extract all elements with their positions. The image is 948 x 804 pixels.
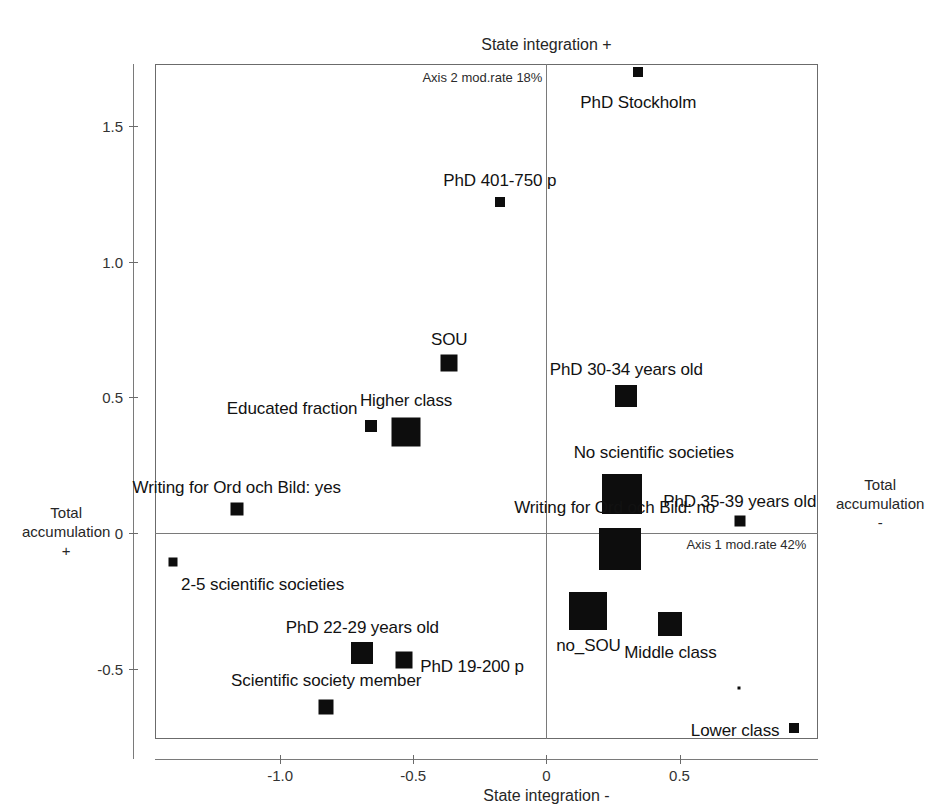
data-point-marker[interactable] [392,417,421,446]
x-tick [680,755,681,764]
data-point-label: Lower class [691,721,780,741]
data-point-marker[interactable] [737,687,740,690]
data-point-marker[interactable] [319,699,334,714]
left-axis-caption-line-3: + [22,541,110,560]
right-axis-caption-line-3: - [836,513,924,532]
data-point-marker[interactable] [169,558,178,567]
data-point-marker[interactable] [633,67,643,77]
y-tick-label: 1.5 [71,118,123,135]
data-point-marker[interactable] [396,651,413,668]
x-tick [546,755,547,764]
y-tick-label: 0.5 [71,389,123,406]
data-point-marker[interactable] [599,528,641,570]
vertical-zero-axis [546,64,547,739]
x-tick [413,755,414,764]
chart-canvas: State integration + State integration - … [0,0,948,804]
data-point-label: SOU [431,330,468,350]
axis2-modrate-note: Axis 2 mod.rate 18% [422,70,542,85]
y-axis-line [133,64,134,759]
y-tick [129,669,138,670]
data-point-label: Educated fraction [227,399,358,419]
data-point-label: PhD 30-34 years old [550,360,703,380]
right-axis-caption: Total accumulation - [836,475,924,533]
x-axis-line [155,759,818,760]
y-tick [129,262,138,263]
x-tick [280,755,281,764]
data-point-marker[interactable] [230,502,243,515]
x-tick-label: -1.0 [267,767,293,784]
data-point-label: Higher class [360,391,452,411]
data-point-label: PhD Stockholm [580,93,696,113]
data-point-label: PhD 401-750 p [443,171,556,191]
y-tick-label: 0 [71,524,123,541]
x-tick-label: -0.5 [400,767,426,784]
data-point-marker[interactable] [658,612,682,636]
data-point-label: no_SOU [556,636,621,656]
bottom-axis-caption: State integration - [483,787,609,804]
y-tick [129,533,138,534]
y-tick-label: -0.5 [71,660,123,677]
data-point-marker[interactable] [734,515,745,526]
horizontal-zero-axis [155,533,818,534]
data-point-label: Writing for Ord och Bild: yes [133,478,341,498]
axis1-modrate-note: Axis 1 mod.rate 42% [686,537,806,552]
data-point-marker[interactable] [351,642,373,664]
data-point-marker[interactable] [789,723,799,733]
data-point-label: Middle class [624,643,716,663]
data-point-marker[interactable] [569,592,607,630]
data-point-marker[interactable] [441,355,458,372]
data-point-label: PhD 35-39 years old [663,492,816,512]
left-axis-caption-line-1: Total [22,503,110,522]
y-tick [129,126,138,127]
top-axis-caption: State integration + [481,36,611,54]
data-point-marker[interactable] [495,197,505,207]
x-tick-label: 0 [542,767,550,784]
data-point-label: PhD 19-200 p [420,657,524,677]
data-point-label: Scientific society member [231,671,421,691]
right-axis-caption-line-2: accumulation [836,494,924,513]
data-point-label: 2-5 scientific societies [181,575,344,595]
data-point-marker[interactable] [615,385,637,407]
y-tick [129,397,138,398]
data-point-marker[interactable] [365,420,377,432]
y-tick-label: 1.0 [71,253,123,270]
right-axis-caption-line-1: Total [836,475,924,494]
x-tick-label: 0.5 [669,767,690,784]
data-point-label: PhD 22-29 years old [286,618,439,638]
data-point-label: No scientific societies [574,443,734,463]
